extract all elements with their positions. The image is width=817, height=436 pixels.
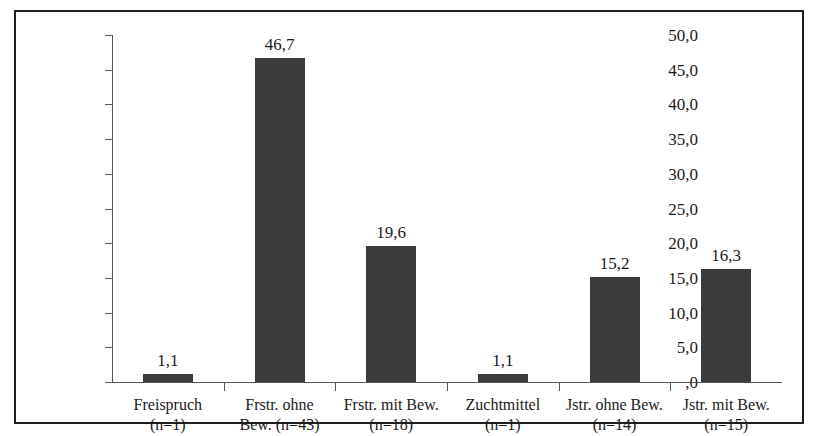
y-axis-tick [105,347,112,348]
y-axis-tick [105,243,112,244]
category-label-count: (n=1) [112,415,224,435]
category-label-count: Bew. (n=43) [224,415,336,435]
y-axis-tick [105,174,112,175]
category-label-count: (n=1) [447,415,559,435]
plot-area: 1,146,719,61,115,216,3 Freispruch(n=1)Fr… [112,35,782,382]
cut-off-caption-fragment [0,0,817,2]
y-axis-tick [105,382,112,383]
x-axis-tick [447,383,448,391]
y-axis-tick [105,139,112,140]
y-axis-tick [105,104,112,105]
y-axis-tick [105,70,112,71]
category-label-count: (n=14) [559,415,671,435]
x-axis-category-label: Jstr. mit Bew.(n=15) [670,395,782,435]
x-axis-tick [670,383,671,391]
x-axis-tick [224,383,225,391]
x-axis-category-label: Jstr. ohne Bew.(n=14) [559,395,671,435]
y-axis-tick [105,35,112,36]
bar [366,246,416,382]
y-axis-title: Angaben in Prozent [0,0,1,124]
bar [255,58,305,382]
x-axis-category-label: Freispruch(n=1) [112,395,224,435]
x-axis-category-label: Frstr. mit Bew.(n=18) [335,395,447,435]
category-label-line1: Frstr. ohne [245,396,313,413]
x-axis-category-label: Frstr. ohneBew. (n=43) [224,395,336,435]
x-axis-tick [559,383,560,391]
category-label-line1: Jstr. mit Bew. [683,396,770,413]
category-label-count: (n=18) [335,415,447,435]
category-label-line1: Frstr. mit Bew. [344,396,439,413]
x-axis-tick [335,383,336,391]
bar-value-label: 16,3 [686,247,766,264]
bar [590,277,640,382]
bar-value-label: 1,1 [128,352,208,369]
y-axis-tick [105,278,112,279]
x-axis-category-label: Zuchtmittel(n=1) [447,395,559,435]
category-label-line1: Zuchtmittel [466,396,541,413]
category-label-line1: Freispruch [134,396,202,413]
y-axis-tick [105,313,112,314]
bar-value-label: 46,7 [240,36,320,53]
y-axis-line [112,35,113,383]
bar [478,374,528,382]
bar-value-label: 19,6 [351,224,431,241]
figure-frame: Angaben in Prozent 50,045,040,035,030,02… [14,10,804,424]
bar [143,374,193,382]
bar-value-label: 15,2 [575,255,655,272]
category-label-count: (n=15) [670,415,782,435]
bar [701,269,751,382]
y-axis-tick [105,209,112,210]
category-label-line1: Jstr. ohne Bew. [566,396,663,413]
bar-value-label: 1,1 [463,352,543,369]
